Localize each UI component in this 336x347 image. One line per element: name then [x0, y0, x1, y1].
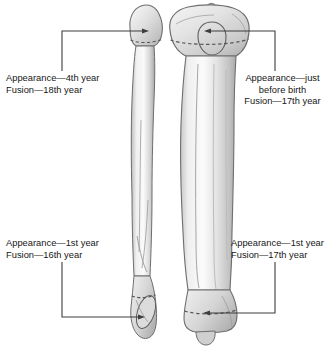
fibula-head: [130, 5, 163, 46]
fibula-shaft: [131, 46, 155, 276]
figure-root: Appearance—4th year Fusion—18th year App…: [0, 0, 336, 347]
tibia-shaft: [181, 56, 236, 290]
leader-bottom-left: [62, 262, 141, 317]
tibia-bone: [170, 3, 249, 345]
fibula-proximal-epiphysis-label: Appearance—4th year Fusion—18th year: [6, 73, 99, 96]
fibula-bone: [130, 5, 163, 339]
medial-malleolus: [196, 331, 215, 345]
bone-illustration: [0, 0, 336, 347]
tibia-proximal-epiphysis-label: Appearance—just before birth Fusion—17th…: [232, 73, 333, 108]
tibia-distal-epiphysis-label: Appearance—1st year Fusion—17th year: [231, 238, 324, 261]
fibula-distal-epiphysis-label: Appearance—1st year Fusion—16th year: [6, 238, 99, 261]
